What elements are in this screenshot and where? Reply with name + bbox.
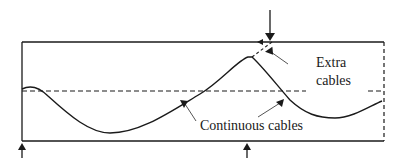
arrowhead-left-top [257, 39, 263, 45]
arrowhead-continuous-right [276, 99, 284, 107]
extra-cables-label-line1: Extra [316, 55, 346, 71]
continuous-cables-label: Continuous cables [200, 118, 303, 134]
down-arrow-icon [265, 33, 275, 41]
up-arrow-icon [18, 143, 26, 150]
up-arrow-icon [243, 143, 251, 150]
continuous-cables-leader-right [258, 103, 280, 117]
extra-cables-label-line2: cables [316, 73, 351, 89]
extra-cables-leader [271, 52, 288, 64]
continuous-cables-leader-left [185, 104, 196, 121]
arrowhead-extra [265, 47, 276, 58]
